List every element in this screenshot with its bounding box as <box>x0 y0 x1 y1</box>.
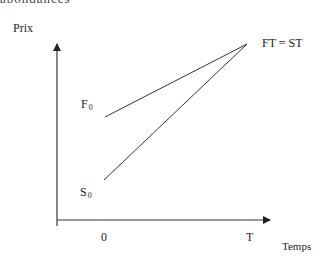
s0-letter: S <box>80 185 87 199</box>
convergence-label: FT = ST <box>262 37 303 49</box>
x-axis-label: Temps <box>282 241 311 252</box>
f0-letter: F <box>81 97 88 111</box>
f0-label: F0 <box>81 98 93 110</box>
y-axis-label: Prix <box>13 22 33 34</box>
f0-subscript: 0 <box>89 103 93 112</box>
x-tick-T: T <box>246 231 253 243</box>
s0-subscript: 0 <box>88 191 92 200</box>
x-tick-zero: 0 <box>101 231 107 243</box>
spot-price-line <box>104 44 247 180</box>
futures-price-line <box>105 44 247 117</box>
s0-label: S0 <box>80 186 92 198</box>
